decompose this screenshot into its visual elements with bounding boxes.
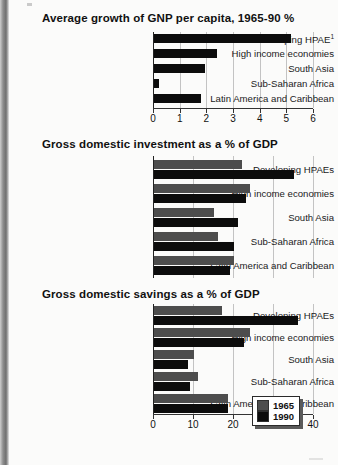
bar xyxy=(154,218,238,227)
bar xyxy=(154,306,222,315)
x-axis-tick-label: 0 xyxy=(150,113,156,124)
plot-area: Developing HPAEsHigh income economiesSou… xyxy=(9,156,338,278)
chart-title: Gross domestic savings as a % of GDP xyxy=(42,288,260,300)
category-label: Latin America and Caribbean xyxy=(210,94,334,104)
x-axis-tick-label: 6 xyxy=(310,113,316,124)
bar xyxy=(154,232,218,241)
x-axis-tick-label: 4 xyxy=(257,113,263,124)
legend-label: 1965 xyxy=(273,400,294,411)
chart-title: Average growth of GNP per capita, 1965-9… xyxy=(42,12,294,24)
scan-gutter-shadow xyxy=(0,0,9,465)
bar xyxy=(154,242,234,251)
category-label: Sub-Saharan Africa xyxy=(251,237,334,247)
x-axis-tick-label: 0 xyxy=(150,419,156,430)
bar xyxy=(154,266,230,275)
plot-area: Developing HPAE1High income economiesSou… xyxy=(9,32,338,132)
category-label: South Asia xyxy=(288,355,334,365)
legend-item: 1965 xyxy=(257,400,294,411)
category-label: South Asia xyxy=(288,213,334,223)
x-axis-tick-label: 2 xyxy=(204,113,210,124)
chart-legend: 1965 1990 xyxy=(252,396,300,426)
bar xyxy=(154,160,242,169)
legend-label: 1990 xyxy=(273,411,294,422)
chart-panel-savings: Gross domestic savings as a % of GDP Dev… xyxy=(9,286,338,461)
bar xyxy=(154,350,194,359)
x-axis-tick-label: 20 xyxy=(227,419,238,430)
category-label: Sub-Saharan Africa xyxy=(251,79,334,89)
category-label: High income economies xyxy=(232,49,334,59)
gray-square-icon xyxy=(257,400,269,411)
black-square-icon xyxy=(257,411,269,422)
x-axis-tick-label: 40 xyxy=(307,419,318,430)
bar xyxy=(154,328,250,337)
chart-panel-investment: Gross domestic investment as a % of GDP … xyxy=(9,136,338,286)
chart-title: Gross domestic investment as a % of GDP xyxy=(42,138,278,150)
gridline xyxy=(206,32,207,108)
bar xyxy=(154,184,250,193)
bar xyxy=(154,360,188,369)
category-label: Sub-Saharan Africa xyxy=(251,377,334,387)
bar xyxy=(154,256,234,265)
bar xyxy=(154,382,190,391)
x-axis-tick-label: 5 xyxy=(284,113,290,124)
chart-panel-gnp-growth: Average growth of GNP per capita, 1965-9… xyxy=(9,10,338,138)
bar xyxy=(154,316,298,325)
legend-item: 1990 xyxy=(257,411,294,422)
scan-speck xyxy=(27,3,32,6)
category-label: South Asia xyxy=(288,64,334,74)
figure-page: Average growth of GNP per capita, 1965-9… xyxy=(9,0,338,465)
bar xyxy=(154,208,214,217)
bar xyxy=(154,194,246,203)
bar xyxy=(154,338,244,347)
bar xyxy=(154,34,291,43)
bar xyxy=(154,49,217,58)
x-axis-tick-label: 3 xyxy=(230,113,236,124)
x-axis-tick-label: 1 xyxy=(177,113,183,124)
scan-speck xyxy=(309,458,323,460)
bar xyxy=(154,404,228,413)
bar xyxy=(154,372,198,381)
x-axis-tick-label: 10 xyxy=(187,419,198,430)
bar xyxy=(154,94,201,103)
footnote-marker: 1 xyxy=(330,33,334,40)
bar xyxy=(154,79,159,88)
bar xyxy=(154,64,205,73)
bar xyxy=(154,394,228,403)
bar xyxy=(154,170,294,179)
